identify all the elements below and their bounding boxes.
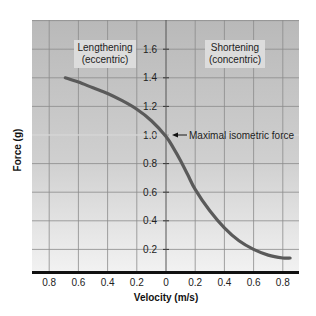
x-tick-label: 0.8 — [42, 277, 56, 288]
x-tick-label: 0 — [163, 277, 169, 288]
y-tick-label: 0.4 — [143, 215, 157, 226]
x-tick-label: 0.2 — [130, 277, 144, 288]
x-tick-label: 0.4 — [217, 277, 231, 288]
x-tick-label: 0.6 — [71, 277, 85, 288]
right-region-label-line1: Shortening — [211, 42, 259, 53]
y-tick-label: 1.4 — [143, 72, 157, 83]
y-axis-label: Force (g) — [12, 129, 23, 172]
annotation-text: Maximal isometric force — [189, 130, 294, 141]
x-axis-label: Velocity (m/s) — [134, 292, 198, 303]
right-region-label-line2: (concentric) — [209, 54, 261, 65]
y-tick-label: 1.2 — [143, 101, 157, 112]
force-velocity-chart: 0.80.60.40.200.20.40.60.80.20.40.60.81.0… — [0, 0, 316, 316]
y-tick-label: 0.2 — [143, 244, 157, 255]
x-tick-label: 0.2 — [188, 277, 202, 288]
x-tick-label: 0.8 — [276, 277, 290, 288]
left-region-label-line2: (eccentric) — [82, 54, 129, 65]
y-tick-label: 0.6 — [143, 187, 157, 198]
x-tick-label: 0.6 — [247, 277, 261, 288]
left-region-label-line1: Lengthening — [77, 42, 132, 53]
x-axis-baseline — [32, 271, 299, 274]
y-tick-label: 0.8 — [143, 158, 157, 169]
x-tick-label: 0.4 — [101, 277, 115, 288]
y-tick-label: 1.6 — [143, 44, 157, 55]
